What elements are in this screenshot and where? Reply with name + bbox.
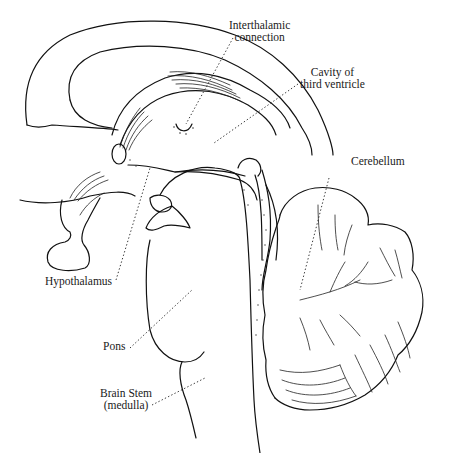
- label-line: Cavity of: [300, 66, 365, 78]
- label-line: Pons: [103, 340, 125, 352]
- label-line: (medulla): [100, 399, 152, 411]
- label-hypothalamus: Hypothalamus: [45, 275, 112, 287]
- label-line: third ventricle: [300, 78, 365, 90]
- label-line: Brain Stem: [100, 387, 152, 399]
- stippling: [129, 159, 266, 335]
- label-pons: Pons: [103, 340, 125, 352]
- label-line: Cerebellum: [351, 155, 405, 167]
- fornix-fibers: [112, 108, 152, 164]
- label-cerebellum: Cerebellum: [351, 155, 405, 167]
- label-line: Interthalamic: [229, 19, 290, 31]
- cerebellum: [263, 187, 423, 410]
- leader-lines: [116, 38, 329, 405]
- brain-sagittal-diagram: [0, 0, 451, 453]
- label-line: Hypothalamus: [45, 275, 112, 287]
- label-brain-stem-medulla: Brain Stem (medulla): [100, 387, 152, 411]
- thalamus: [128, 124, 257, 200]
- label-line: connection: [229, 31, 290, 43]
- label-interthalamic-connection: Interthalamic connection: [229, 19, 290, 43]
- hypothalamus-pituitary: [20, 172, 190, 270]
- brain-stem: [146, 158, 277, 453]
- label-third-ventricle: Cavity of third ventricle: [300, 66, 365, 90]
